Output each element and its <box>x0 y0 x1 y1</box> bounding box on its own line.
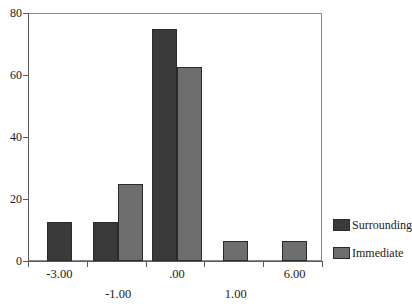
y-axis-tick-label: 0 <box>0 255 22 267</box>
bar-immediate--1.00 <box>118 184 143 262</box>
legend-swatch-icon <box>333 247 350 259</box>
legend-item-surrounding[interactable]: Surrounding <box>333 219 412 231</box>
bar-immediate-1.00 <box>223 241 248 261</box>
y-axis-tick-label: 80 <box>0 7 22 19</box>
legend-swatch-icon <box>333 219 350 231</box>
bar-immediate-6.00 <box>282 241 307 261</box>
x-axis-tick <box>322 262 323 267</box>
y-axis-label-slot: 80 <box>0 7 22 19</box>
y-axis-label-slot: 40 <box>0 131 22 143</box>
bar-immediate-.00 <box>177 67 202 261</box>
x-axis-tick <box>87 262 88 267</box>
bar-surrounding-.00 <box>152 29 177 262</box>
legend-item-immediate[interactable]: Immediate <box>333 247 403 259</box>
x-axis-line <box>28 261 323 262</box>
y-axis-tick-label: 60 <box>0 69 22 81</box>
x-axis-tick <box>146 262 147 267</box>
bars-layer <box>28 13 322 261</box>
y-axis-tick-label: 20 <box>0 193 22 205</box>
y-axis-label-slot: 60 <box>0 69 22 81</box>
legend-item-label: Surrounding <box>352 219 412 231</box>
x-axis-tick-label: -1.00 <box>105 288 131 301</box>
bar-surrounding--3.00 <box>47 222 72 261</box>
x-axis-tick-label: .00 <box>169 268 185 281</box>
y-axis-tick-label: 40 <box>0 131 22 143</box>
y-axis-label-slot: 20 <box>0 193 22 205</box>
x-axis-tick <box>263 262 264 267</box>
x-axis-tick-label: 1.00 <box>225 288 247 301</box>
legend-item-label: Immediate <box>352 247 403 259</box>
x-axis-tick <box>204 262 205 267</box>
x-axis-tick-label: -3.00 <box>46 268 72 281</box>
x-axis-tick-label: 6.00 <box>284 268 306 281</box>
x-axis-tick <box>28 262 29 267</box>
bar-surrounding--1.00 <box>93 222 118 261</box>
y-axis-label-slot: 0 <box>0 255 22 267</box>
